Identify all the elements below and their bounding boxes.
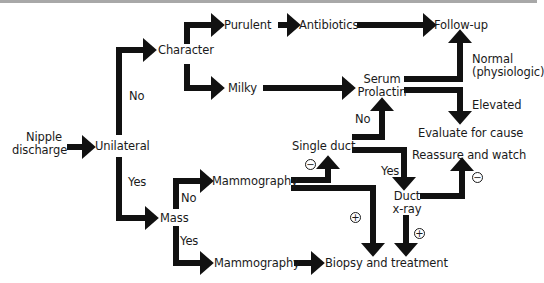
edge-label-unilateral-no: No — [129, 90, 144, 103]
node-mammography-no: Mammography — [212, 175, 298, 188]
node-duct-xray-line2: x-ray — [390, 203, 424, 216]
edge-label-single-duct-yes: Yes — [381, 165, 399, 178]
negative-sign-icon: − — [472, 172, 483, 183]
positive-sign-icon: + — [414, 228, 425, 239]
edge-label-normal-line2: (physiologic) — [472, 66, 544, 79]
node-mass: Mass — [160, 212, 189, 225]
edge-label-mass-yes: Yes — [180, 235, 198, 248]
edge-label-single-duct-no: No — [355, 113, 370, 126]
edge-label-mass-no: No — [181, 192, 196, 205]
arrow-character-to-milky — [187, 64, 214, 88]
node-reassure-and-watch: Reassure and watch — [412, 149, 526, 162]
node-antibiotics: Antibiotics — [299, 19, 358, 32]
negative-sign-icon: − — [305, 159, 316, 170]
edge-label-normal: Normal (physiologic) — [472, 53, 544, 79]
arrow-prolactin-to-evaluate — [404, 90, 460, 114]
node-nipple-discharge: Nipple discharge — [12, 131, 62, 157]
node-purulent: Purulent — [224, 19, 271, 32]
node-character: Character — [158, 44, 214, 57]
node-milky: Milky — [228, 82, 257, 95]
node-single-duct: Single duct — [292, 140, 355, 153]
node-follow-up: Follow-up — [434, 19, 488, 32]
node-serum-prolactin: Serum Prolactin — [352, 73, 412, 99]
arrow-prolactin-to-followup — [404, 40, 460, 79]
arrow-duct-xray-to-reassure — [420, 168, 462, 196]
node-evaluate-for-cause: Evaluate for cause — [418, 127, 523, 140]
node-nipple-discharge-line2: discharge — [12, 144, 62, 157]
positive-sign-icon: + — [350, 212, 361, 223]
node-duct-xray: Duct x-ray — [390, 190, 424, 216]
edge-label-elevated: Elevated — [472, 99, 521, 112]
node-mammography-yes: Mammography — [214, 257, 300, 270]
edge-label-unilateral-yes: Yes — [128, 176, 146, 189]
node-biopsy-and-treatment: Biopsy and treatment — [325, 257, 448, 270]
node-serum-prolactin-line2: Prolactin — [352, 86, 412, 99]
arrow-character-to-purulent — [187, 25, 214, 44]
node-unilateral: Unilateral — [95, 140, 150, 153]
